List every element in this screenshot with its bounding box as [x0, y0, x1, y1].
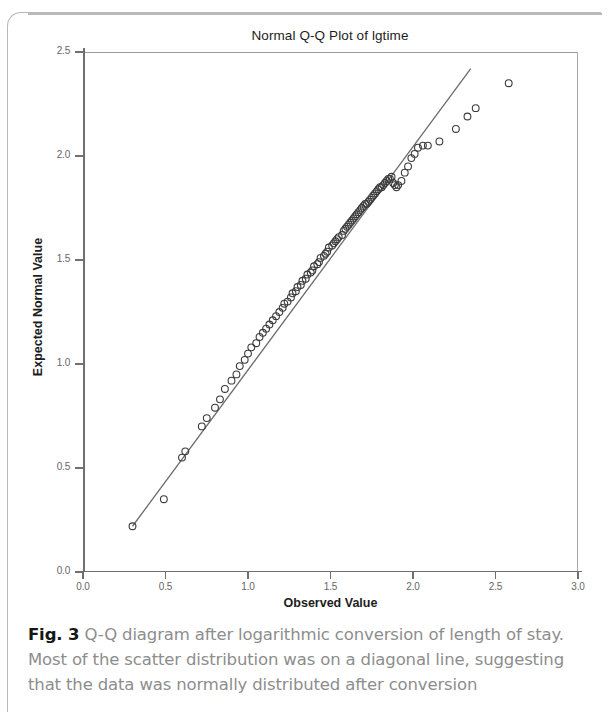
scatter-point: [236, 363, 243, 370]
scatter-point: [217, 396, 224, 403]
scatter-point: [316, 259, 323, 266]
scatter-point: [309, 267, 316, 274]
scatter-point: [222, 386, 229, 393]
scatter-point: [322, 250, 329, 257]
scatter-point: [241, 356, 248, 363]
scatter-point: [203, 415, 210, 422]
scatter-canvas: [0, 0, 608, 620]
scatter-point: [198, 423, 205, 430]
scatter-point: [505, 80, 512, 87]
scatter-point: [405, 163, 412, 170]
scatter-point: [253, 340, 260, 347]
scatter-point: [401, 169, 408, 176]
figure-qq-plot: Normal Q-Q Plot of lgtime 0.00.51.01.52.…: [0, 0, 608, 620]
figure-label: Fig. 3: [28, 625, 79, 644]
scatter-point: [212, 404, 219, 411]
scatter-point: [228, 377, 235, 384]
scatter-point: [245, 350, 252, 357]
scatter-point: [160, 496, 167, 503]
scatter-point: [424, 142, 431, 149]
scatter-point: [472, 105, 479, 112]
scatter-point: [464, 113, 471, 120]
figure-caption: Fig. 3 Q-Q diagram after logarithmic con…: [28, 622, 584, 697]
scatter-point: [436, 138, 443, 145]
reference-line: [133, 69, 471, 527]
scatter-series: [129, 80, 512, 530]
scatter-point: [233, 371, 240, 378]
figure-caption-text: Q-Q diagram after logarithmic conversion…: [28, 625, 564, 694]
scatter-point: [453, 126, 460, 133]
